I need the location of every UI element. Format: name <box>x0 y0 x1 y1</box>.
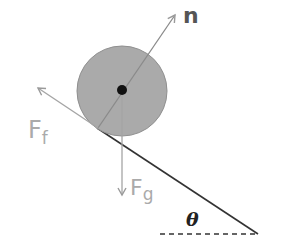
gravity-label-subscript: g <box>143 184 154 204</box>
friction-label-subscript: f <box>42 128 49 148</box>
angle-label: θ <box>186 208 199 230</box>
friction-force-label: Ff <box>28 116 49 148</box>
center-of-mass-dot <box>117 85 127 95</box>
free-body-diagram: n Ff Fg θ <box>0 0 283 250</box>
gravity-force-label: Fg <box>130 175 153 204</box>
incline-surface <box>97 128 258 234</box>
gravity-label-main: F <box>130 175 143 200</box>
normal-force-label: n <box>183 3 199 28</box>
friction-label-main: F <box>28 116 42 144</box>
